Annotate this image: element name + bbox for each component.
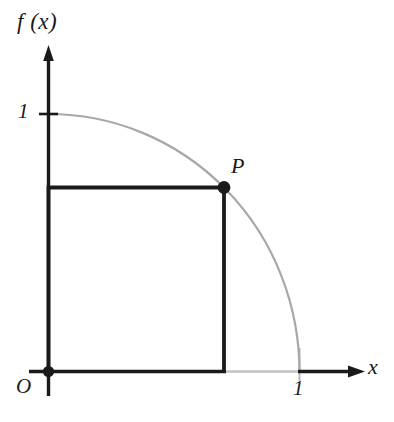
quarter-circle-curve	[49, 114, 300, 372]
point-p-marker	[218, 181, 231, 194]
inscribed-rectangle	[49, 188, 225, 372]
origin-label: O	[16, 376, 31, 397]
quarter-circle-rectangle-diagram	[0, 0, 394, 422]
figure-container: f (x) 1 O 1 x P	[0, 0, 394, 422]
x-axis-label: x	[368, 356, 378, 378]
y-axis-label: f (x)	[17, 10, 57, 33]
y-axis-arrowhead	[43, 45, 54, 61]
x-tick-one-label: 1	[293, 378, 304, 399]
origin-point-marker	[43, 366, 54, 377]
y-tick-one-label: 1	[18, 101, 29, 122]
point-p-label: P	[231, 155, 244, 177]
x-axis-arrowhead	[348, 366, 365, 378]
